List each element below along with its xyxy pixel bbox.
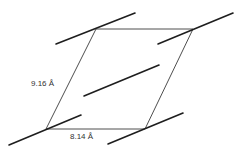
unit-cell-parallelogram [46,29,193,129]
molecule-bottom-right [108,113,183,144]
molecule-top-right [158,13,233,44]
unit-cell-diagram [0,0,243,152]
side-length-label-b: 8.14 Å [70,133,93,141]
side-length-label-a: 9.16 Å [31,80,54,88]
molecule-top-left [56,13,135,44]
molecule-center [84,65,159,96]
